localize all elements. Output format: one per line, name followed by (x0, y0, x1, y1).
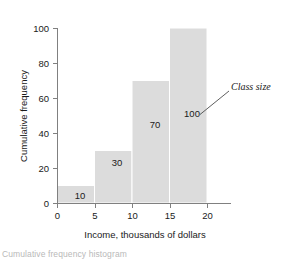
x-tick-label-1: 5 (92, 210, 97, 221)
y-tick-label-2: 40 (38, 128, 49, 139)
y-tick-label-3: 60 (38, 93, 49, 104)
y-tick-label-5: 100 (33, 23, 49, 34)
figure-caption: Cumulative frequency histogram (2, 249, 127, 259)
y-tick-label-4: 80 (38, 58, 49, 69)
x-tick-label-4: 20 (202, 210, 213, 221)
y-tick-label-1: 20 (38, 163, 49, 174)
figure: 0 20 40 60 80 100 0 5 10 15 20 10 30 70 … (0, 0, 288, 260)
y-tick-labels: 0 20 40 60 80 100 (33, 23, 49, 209)
x-tick-marks (58, 204, 208, 209)
x-tick-labels: 0 5 10 15 20 (55, 210, 213, 221)
annotation-label: Class size (231, 81, 271, 92)
bar-value-2: 70 (150, 119, 161, 130)
x-axis-title: Income, thousands of dollars (84, 229, 206, 240)
y-tick-label-0: 0 (44, 198, 49, 209)
class-size-annotation: Class size (200, 81, 271, 115)
cumulative-frequency-histogram: 0 20 40 60 80 100 0 5 10 15 20 10 30 70 … (0, 0, 288, 260)
bar-value-3: 100 (184, 108, 200, 119)
bar-value-0: 10 (75, 190, 86, 201)
bar-2 (132, 81, 170, 204)
x-tick-label-3: 15 (165, 210, 176, 221)
bar-value-1: 30 (112, 157, 123, 168)
y-tick-marks (53, 29, 58, 204)
y-axis-title: Cumulative frequency (18, 70, 29, 162)
x-tick-label-2: 10 (127, 210, 138, 221)
x-tick-label-0: 0 (55, 210, 60, 221)
